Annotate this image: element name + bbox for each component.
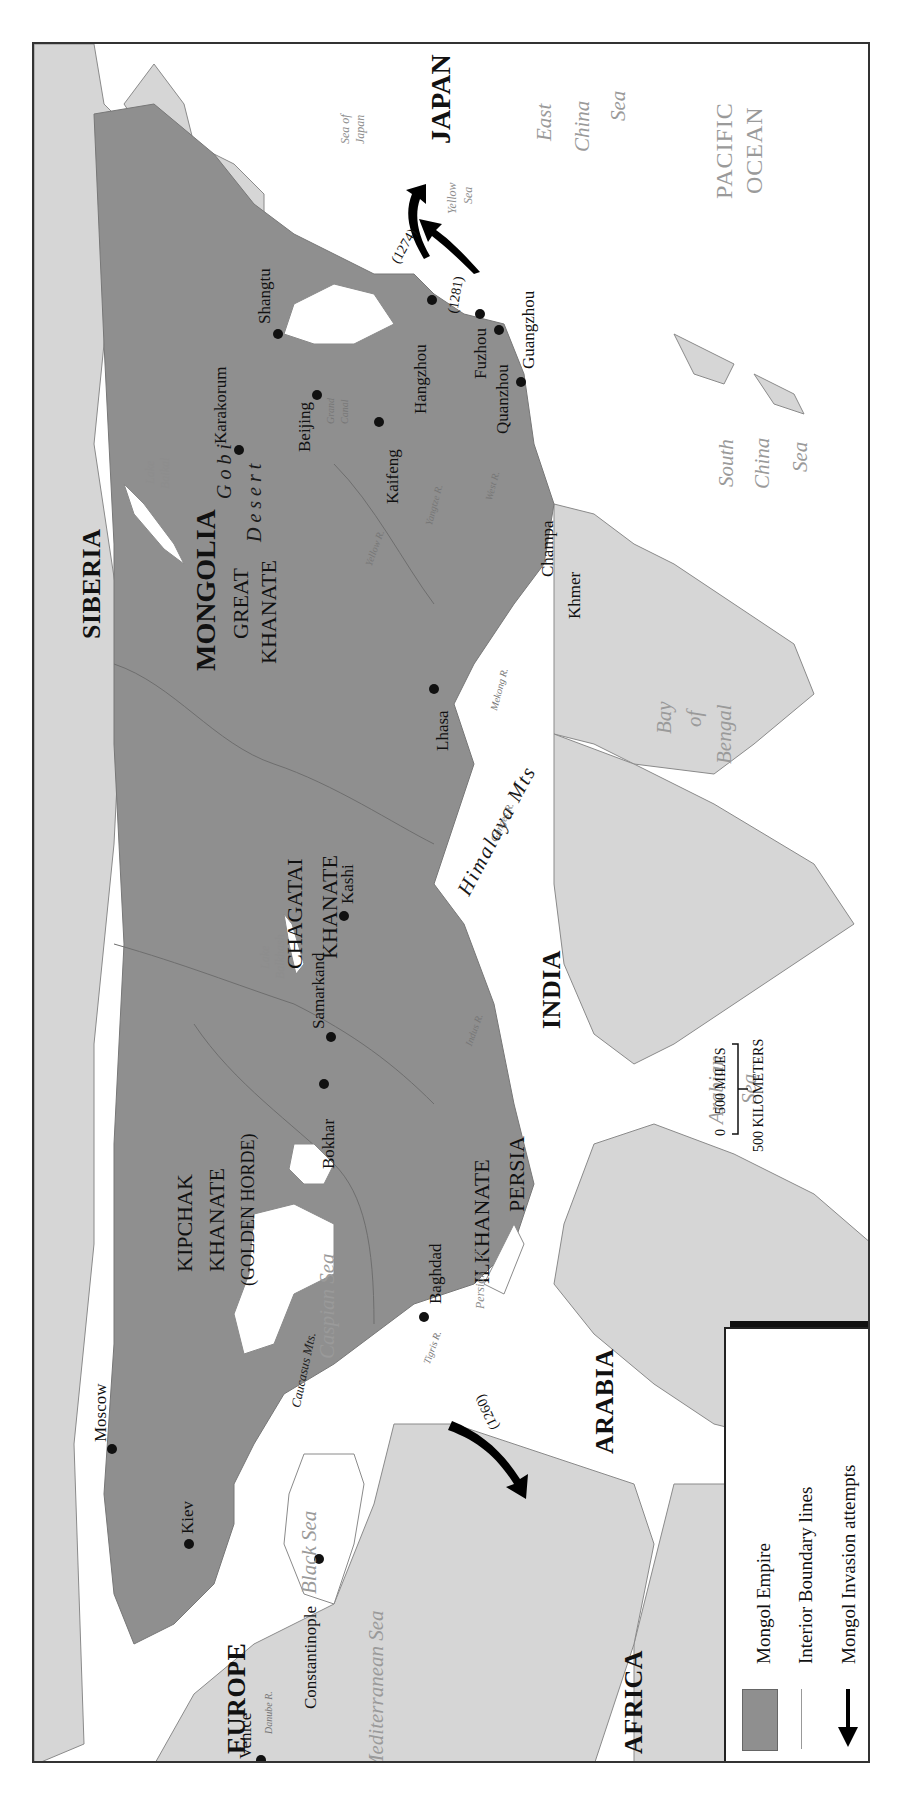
scale-zero: 0 <box>714 1129 728 1136</box>
legend-swatch-mongol-empire <box>742 1689 778 1751</box>
legend-box: Mongol Empire Interior Boundary lines Mo… <box>724 1327 870 1763</box>
invasion-arrow-1260 <box>448 1421 528 1499</box>
legend-arrow-icon <box>836 1687 860 1751</box>
scale-kilometers: 500 KILOMETERS <box>752 1039 766 1152</box>
map-frame: JAPAN SIBERIA MONGOLIA GREAT KHANATE CHA… <box>32 42 870 1763</box>
legend-label-invasion-attempts: Mongol Invasion attempts <box>839 1465 858 1664</box>
legend-label-boundary-lines: Interior Boundary lines <box>796 1487 815 1664</box>
invasion-arrow-1281 <box>419 219 480 274</box>
legend-label-mongol-empire: Mongol Empire <box>754 1543 773 1664</box>
scale-miles: 500 MILES <box>714 1048 728 1115</box>
legend-symbol-boundary-line <box>801 1689 802 1749</box>
